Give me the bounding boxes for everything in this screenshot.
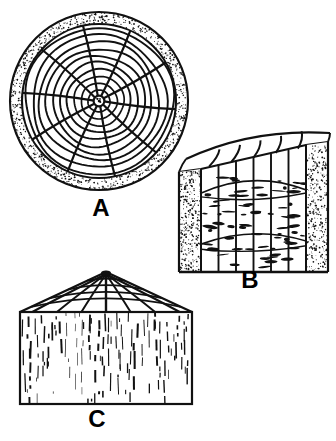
stipple-dot [179, 109, 180, 110]
stipple-dot [312, 211, 314, 213]
stipple-dot [133, 27, 135, 29]
stipple-dot [122, 184, 123, 185]
stipple-dot [32, 57, 33, 58]
grain-line-segment [94, 370, 96, 383]
stipple-dot [144, 28, 146, 30]
stipple-dot [70, 177, 72, 179]
stipple-dot [325, 261, 326, 262]
stipple-dot [75, 180, 76, 181]
stipple-dot [23, 72, 24, 73]
stipple-dot [325, 164, 326, 165]
stipple-dot [308, 169, 309, 170]
stipple-dot [310, 212, 312, 214]
stipple-dot [191, 221, 192, 222]
stipple-dot [310, 185, 311, 186]
stipple-dot [16, 118, 18, 120]
stipple-dot [149, 164, 150, 165]
stipple-dot [183, 176, 184, 177]
stipple-dot [189, 194, 190, 195]
stipple-dot [162, 53, 163, 54]
stipple-dot [193, 252, 194, 253]
stipple-dot [42, 42, 43, 43]
stipple-dot [325, 218, 327, 220]
stipple-dot [311, 240, 313, 242]
stipple-dot [318, 214, 320, 216]
stipple-dot [318, 240, 319, 241]
stipple-dot [17, 104, 18, 105]
stipple-dot [157, 44, 158, 45]
stipple-dot [183, 253, 185, 255]
stipple-dot [317, 239, 318, 240]
stipple-dot [173, 59, 175, 61]
stipple-dot [181, 232, 183, 234]
stipple-dot [15, 91, 16, 92]
stipple-dot [11, 101, 12, 102]
stipple-dot [322, 261, 324, 263]
stipple-dot [81, 182, 82, 183]
stipple-dot [198, 269, 200, 271]
stipple-dot [186, 201, 188, 203]
stipple-dot [185, 242, 187, 244]
grain-line-segment [168, 345, 170, 352]
stipple-dot [190, 211, 191, 212]
stipple-dot [312, 197, 313, 198]
stipple-dot [146, 30, 147, 31]
stipple-dot [188, 261, 189, 262]
stipple-dot [87, 183, 88, 184]
stipple-dot [198, 242, 200, 244]
stipple-dot [313, 258, 314, 259]
stipple-dot [197, 200, 198, 201]
stipple-dot [180, 236, 182, 238]
stipple-dot [319, 252, 321, 254]
stipple-dot [316, 179, 318, 181]
grain-line-segment [47, 358, 48, 369]
stipple-dot [133, 181, 134, 182]
stipple-dot [35, 157, 36, 158]
stipple-dot [311, 190, 312, 191]
stipple-dot [311, 252, 312, 253]
stipple-dot [181, 117, 182, 118]
stipple-dot [168, 50, 169, 51]
stipple-dot [186, 199, 187, 200]
grain-line-segment [48, 347, 50, 359]
stipple-dot [316, 191, 318, 193]
stipple-dot [40, 154, 41, 155]
stipple-dot [142, 173, 143, 174]
stipple-dot [322, 226, 324, 228]
stipple-dot [311, 266, 312, 267]
stipple-dot [33, 148, 34, 149]
stipple-dot [85, 15, 87, 17]
stipple-dot [324, 167, 326, 169]
stipple-dot [139, 171, 140, 172]
stipple-dot [19, 103, 20, 104]
stipple-dot [169, 52, 170, 53]
stipple-dot [56, 32, 57, 33]
stipple-dot [193, 266, 194, 267]
stipple-dot [316, 207, 317, 208]
stipple-dot [324, 146, 325, 147]
stipple-dot [315, 204, 316, 205]
stipple-dot [322, 223, 323, 224]
stipple-dot [13, 106, 14, 107]
stipple-dot [149, 162, 150, 163]
stipple-dot [178, 123, 180, 125]
grain-line-segment [178, 316, 180, 322]
stipple-dot [151, 32, 152, 33]
stipple-dot [112, 185, 113, 186]
stipple-dot [193, 261, 194, 262]
stipple-dot [62, 173, 63, 174]
stipple-dot [191, 234, 192, 235]
stipple-dot [307, 214, 309, 216]
stipple-dot [20, 97, 21, 98]
stipple-dot [197, 217, 198, 218]
stipple-dot [198, 211, 199, 212]
stipple-dot [317, 199, 319, 201]
stipple-dot [17, 125, 18, 126]
stipple-dot [41, 155, 43, 157]
stipple-dot [320, 189, 321, 190]
stipple-dot [68, 181, 69, 182]
grain-line-segment [37, 393, 38, 404]
stipple-dot [308, 223, 310, 225]
stipple-dot [38, 49, 40, 51]
stipple-dot [17, 130, 18, 131]
